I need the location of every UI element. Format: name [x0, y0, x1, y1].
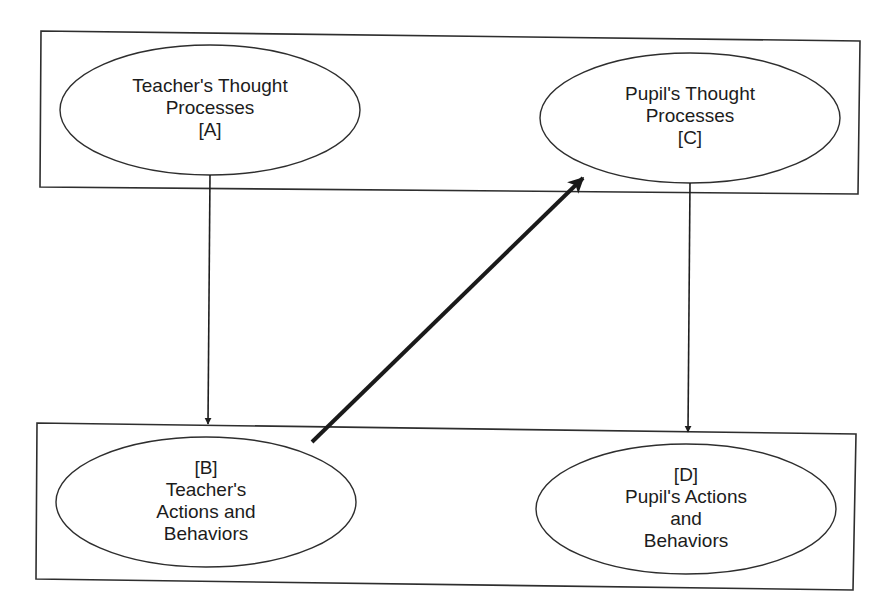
edge-b-to-c-arrow — [312, 178, 583, 442]
node-a-line-3: [A] — [110, 119, 310, 141]
node-b-line-2: Teacher's — [106, 479, 306, 501]
node-d-line-1: [D] — [586, 464, 786, 486]
node-d-label: [D] Pupil's Actions and Behaviors — [586, 464, 786, 552]
edge-c-to-d-arrow — [688, 183, 690, 432]
node-a-line-2: Processes — [110, 97, 310, 119]
node-d-line-4: Behaviors — [586, 530, 786, 552]
node-c-line-2: Processes — [590, 105, 790, 127]
node-a-line-1: Teacher's Thought — [110, 75, 310, 97]
node-b-label: [B] Teacher's Actions and Behaviors — [106, 457, 306, 545]
node-c-line-1: Pupil's Thought — [590, 83, 790, 105]
node-d-line-2: Pupil's Actions — [586, 486, 786, 508]
node-b-line-1: [B] — [106, 457, 306, 479]
edge-a-to-b-arrow — [208, 175, 210, 424]
node-a-label: Teacher's Thought Processes [A] — [110, 75, 310, 141]
node-b-line-3: Actions and — [106, 501, 306, 523]
node-c-line-3: [C] — [590, 127, 790, 149]
node-c-label: Pupil's Thought Processes [C] — [590, 83, 790, 149]
node-b-line-4: Behaviors — [106, 523, 306, 545]
node-d-line-3: and — [586, 508, 786, 530]
